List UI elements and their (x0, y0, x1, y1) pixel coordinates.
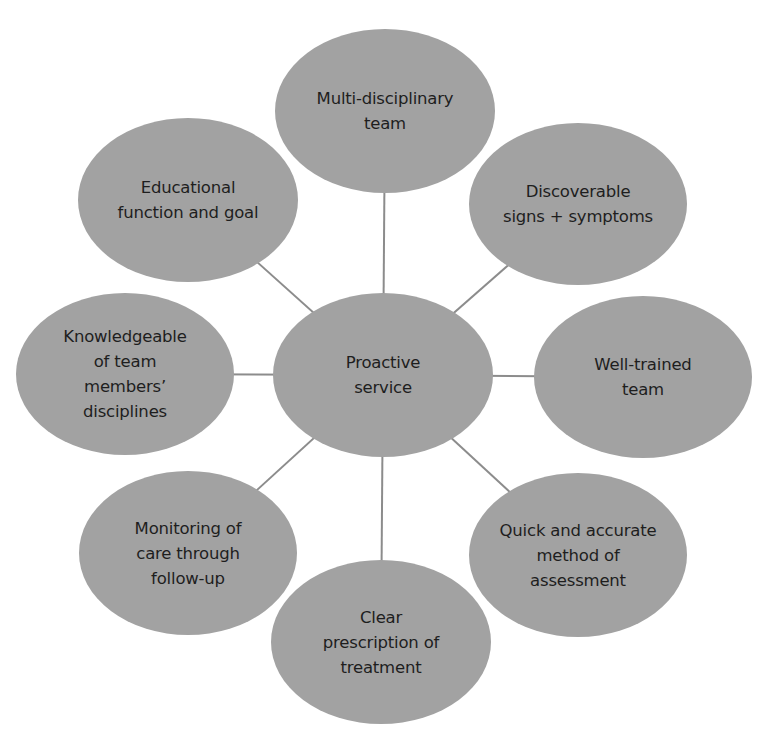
label-line: signs + symptoms (503, 204, 653, 229)
label-line: members’ (63, 374, 186, 399)
label-line: Proactive (346, 350, 421, 375)
label-line: function and goal (118, 200, 259, 225)
node-well-trained-team: Well-trainedteam (534, 296, 752, 458)
node-educational-function-goal: Educationalfunction and goal (78, 118, 298, 282)
label-line: service (346, 375, 421, 400)
label-line: Well-trained (594, 352, 691, 377)
label-line: treatment (323, 655, 439, 680)
node-educational-function-goal-label: Educationalfunction and goal (118, 175, 259, 225)
node-quick-accurate-assessment: Quick and accuratemethod ofassessment (469, 473, 687, 637)
label-line: Clear (323, 605, 439, 630)
node-monitoring-care-follow-up-label: Monitoring ofcare throughfollow-up (135, 516, 242, 591)
label-line: assessment (500, 568, 657, 593)
label-line: Discoverable (503, 179, 653, 204)
label-line: team (594, 377, 691, 402)
label-line: method of (500, 543, 657, 568)
node-knowledgeable-team-disciplines: Knowledgeableof teammembers’disciplines (16, 293, 234, 455)
label-line: of team (63, 349, 186, 374)
node-discoverable-signs-symptoms: Discoverablesigns + symptoms (469, 123, 687, 285)
center-node-label: Proactiveservice (346, 350, 421, 400)
node-discoverable-signs-symptoms-label: Discoverablesigns + symptoms (503, 179, 653, 229)
node-quick-accurate-assessment-label: Quick and accuratemethod ofassessment (500, 518, 657, 593)
label-line: care through (135, 541, 242, 566)
node-multi-disciplinary-team: Multi-disciplinaryteam (275, 29, 495, 193)
label-line: follow-up (135, 566, 242, 591)
label-line: Multi-disciplinary (317, 86, 454, 111)
node-monitoring-care-follow-up: Monitoring ofcare throughfollow-up (79, 471, 297, 635)
node-well-trained-team-label: Well-trainedteam (594, 352, 691, 402)
node-multi-disciplinary-team-label: Multi-disciplinaryteam (317, 86, 454, 136)
label-line: prescription of (323, 630, 439, 655)
label-line: Educational (118, 175, 259, 200)
node-clear-prescription-treatment-label: Clearprescription oftreatment (323, 605, 439, 680)
label-line: Knowledgeable (63, 324, 186, 349)
node-clear-prescription-treatment: Clearprescription oftreatment (271, 560, 491, 724)
label-line: disciplines (63, 399, 186, 424)
label-line: Quick and accurate (500, 518, 657, 543)
label-line: Monitoring of (135, 516, 242, 541)
label-line: team (317, 111, 454, 136)
center-node: Proactiveservice (273, 293, 493, 457)
node-knowledgeable-team-disciplines-label: Knowledgeableof teammembers’disciplines (63, 324, 186, 424)
